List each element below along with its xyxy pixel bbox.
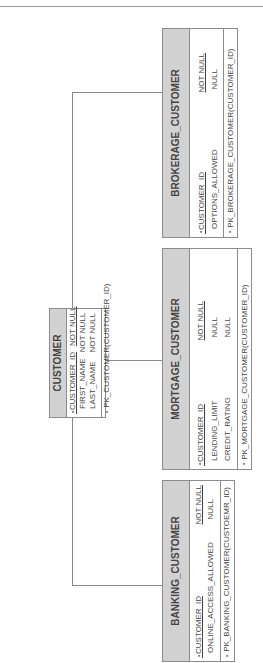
- column-nullability: NULL: [208, 33, 221, 95]
- column-nullability: NULL: [208, 253, 222, 343]
- key-icon: ⚬: [197, 462, 203, 466]
- column-list: ⚬CUSTOMER_ID NOT NULL FIRST_NAME NOT NUL…: [67, 309, 102, 417]
- entity-brokerage-customer[interactable]: BROKERAGE_CUSTOMER ⚬CUSTOMER_ID NOT NULL…: [162, 28, 238, 238]
- column-nullability: NOT NULL: [195, 33, 208, 98]
- primary-key-constraint: ⚬ PK_BROKERAGE_CUSTOMER(CUSTOMER_ID): [224, 29, 237, 237]
- column-list: ⚬CUSTOMER_ID NOT NULL LENDING_LIMIT NULL…: [190, 249, 238, 469]
- column-name: ⚬CUSTOMER_ID: [193, 596, 205, 658]
- header-rule: [0, 6, 263, 7]
- connector-customer-brokerage-horizontal: [72, 92, 162, 93]
- key-icon: ⚬: [198, 230, 204, 234]
- primary-key-constraint: ⚬ PK_CUSTOMER(CUSTOMER_ID): [102, 309, 112, 417]
- column-list: ⚬CUSTOMER_ID NOT NULL OPTIONS_ALLOWED NU…: [190, 29, 224, 237]
- column-name: FIRST_NAME: [78, 358, 88, 414]
- column-row: ONLINE_ACCESS_ALLOWED NULL: [205, 485, 217, 658]
- entity-title: MORTGAGE_CUSTOMER: [163, 249, 190, 469]
- entity-mortgage-customer[interactable]: MORTGAGE_CUSTOMER ⚬CUSTOMER_ID NOT NULL …: [162, 248, 252, 470]
- key-icon: ⚬: [227, 230, 233, 234]
- key-icon: ⚬: [196, 654, 202, 658]
- entity-title: BANKING_CUSTOMER: [163, 481, 190, 661]
- entity-customer[interactable]: CUSTOMER ⚬CUSTOMER_ID NOT NULL FIRST_NAM…: [49, 308, 106, 418]
- key-icon: ⚬: [70, 410, 76, 414]
- entity-banking-customer[interactable]: BANKING_CUSTOMER ⚬CUSTOMER_ID NOT NULL O…: [162, 480, 235, 662]
- column-row: ⚬CUSTOMER_ID NOT NULL: [194, 253, 208, 466]
- column-row: CREDIT_RATING NULL: [221, 253, 235, 466]
- column-nullability: NULL: [221, 253, 235, 343]
- connector-customer-banking-vertical: [72, 418, 73, 585]
- key-icon: ⚬: [241, 462, 247, 466]
- column-name: OPTIONS_ALLOWED: [208, 149, 221, 234]
- column-name: ONLINE_ACCESS_ALLOWED: [205, 542, 217, 658]
- column-name: ⚬CUSTOMER_ID: [194, 404, 208, 466]
- column-row: FIRST_NAME NOT NULL: [78, 313, 88, 414]
- primary-key-constraint: ⚬ PK_BANKING_CUSTOMER(CUSTOEMR_ID): [221, 481, 233, 661]
- column-name: ⚬CUSTOMER_ID: [68, 352, 78, 414]
- column-name: LENDING_LIMIT: [208, 401, 222, 466]
- column-row: ⚬CUSTOMER_ID NOT NULL: [195, 33, 208, 234]
- column-row: ⚬CUSTOMER_ID NOT NULL: [193, 485, 205, 658]
- column-nullability: NOT NULL: [78, 313, 88, 358]
- connector-customer-banking-horizontal: [72, 585, 162, 586]
- entity-title: CUSTOMER: [50, 309, 67, 417]
- column-row: ⚬CUSTOMER_ID NOT NULL: [68, 313, 78, 414]
- column-nullability: NOT NULL: [68, 306, 78, 351]
- key-icon: ⚬: [224, 654, 230, 658]
- column-nullability: NULL: [205, 485, 217, 525]
- column-name: LAST_NAME: [88, 361, 98, 414]
- page-header-strip: [0, 0, 263, 9]
- entity-title: BROKERAGE_CUSTOMER: [163, 29, 190, 237]
- connector-customer-brokerage-vertical: [72, 92, 73, 309]
- column-row: LENDING_LIMIT NULL: [208, 253, 222, 466]
- column-list: ⚬CUSTOMER_ID NOT NULL ONLINE_ACCESS_ALLO…: [190, 481, 221, 661]
- connector-customer-mortgage: [106, 360, 162, 361]
- primary-key-constraint: ⚬ PK_MORTGAGE_CUSTOMER(CUSTOMER_ID): [238, 249, 251, 469]
- column-nullability: NOT NULL: [193, 485, 205, 530]
- column-name: CREDIT_RATING: [221, 397, 235, 466]
- column-row: OPTIONS_ALLOWED NULL: [208, 33, 221, 234]
- column-nullability: NOT NULL: [88, 313, 98, 358]
- key-icon: ⚬: [104, 410, 110, 414]
- column-nullability: NOT NULL: [194, 253, 208, 346]
- column-row: LAST_NAME NOT NULL: [88, 313, 98, 414]
- column-name: ⚬CUSTOMER_ID: [195, 172, 208, 234]
